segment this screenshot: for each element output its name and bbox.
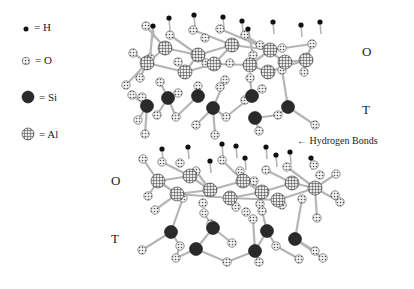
silicon-atom [246, 90, 259, 103]
aluminum-atom [207, 57, 221, 71]
oxygen-atom [151, 206, 159, 214]
oxygen-atom [222, 113, 230, 121]
hydrogen-atom [308, 155, 313, 160]
oxygen-atom [295, 255, 303, 263]
oxygen-atom [262, 166, 270, 174]
oxygen-atom [216, 25, 224, 33]
oxygen-atom [201, 34, 209, 42]
oxygen-atom [313, 214, 321, 222]
oxygen-atom [136, 74, 144, 82]
oxygen-atom [211, 131, 219, 139]
oxygen-atom [283, 163, 291, 171]
legend-aluminum-label: = Al [39, 129, 58, 140]
oxygen-atom [129, 49, 137, 57]
oxygen-atom [142, 22, 150, 30]
aluminum-atom [191, 48, 205, 62]
silicon-atom [190, 243, 203, 256]
silicon-atom [289, 233, 302, 246]
hydrogen-atom [207, 158, 212, 163]
aluminum-atom [178, 65, 192, 79]
upper-tetrahedral-label: T [362, 103, 370, 116]
hydrogen-bonds-label: ← Hydrogen Bonds [297, 135, 378, 146]
aluminum-atom [170, 187, 184, 201]
aluminum-atom [243, 58, 257, 72]
oxygen-atom [256, 41, 264, 49]
hydrogen-atom [298, 22, 303, 27]
silicon-atom [249, 245, 262, 258]
oxygen-atom [319, 254, 327, 262]
aluminum-atom [308, 181, 322, 195]
oxygen-atom [274, 111, 282, 119]
oxygen-atom [255, 258, 263, 266]
oxygen-atom [166, 31, 174, 39]
aluminum-atom [236, 174, 250, 188]
hydrogen-atom [150, 23, 155, 28]
oxygen-atom [246, 74, 254, 82]
legend-oxygen: = O [21, 55, 52, 66]
oxygen-atom [223, 258, 231, 266]
aluminum-atom [255, 185, 269, 199]
silicon-atom [165, 226, 178, 239]
oxygen-atom [122, 81, 130, 89]
lower-octahedral-label: O [111, 174, 120, 187]
oxygen-atom [311, 121, 319, 129]
legend-silicon: = Si [21, 90, 57, 104]
oxygen-atom [308, 40, 316, 48]
hydrogen-atom [245, 26, 250, 31]
oxygen-atom [331, 191, 339, 199]
silicon-atom [207, 222, 220, 235]
oxygen-atom [228, 239, 236, 247]
oxygen-atom [194, 82, 202, 90]
aluminum-atom [278, 55, 292, 69]
oxygen-atom [336, 198, 344, 206]
oxygen-atom [176, 159, 184, 167]
silicon-atom [207, 102, 220, 115]
aluminum-atom [140, 56, 154, 70]
aluminum-atom [183, 169, 197, 183]
aluminum-atom [261, 65, 275, 79]
oxygen-atom [300, 68, 308, 76]
oxygen-atom [199, 199, 207, 207]
hydrogen-atom [219, 141, 224, 146]
hydrogen-atom [317, 19, 322, 24]
silicon-atom [249, 112, 262, 125]
oxygen-atom [139, 155, 147, 163]
hydrogen-atom [233, 143, 238, 148]
oxygen-atom [128, 91, 136, 99]
aluminum-atom [223, 191, 237, 205]
hydrogen-atom [191, 12, 196, 17]
aluminum-atom [225, 38, 239, 52]
oxygen-atom [298, 195, 306, 203]
legend-silicon-label: = Si [39, 92, 57, 103]
hydrogen-atom [263, 144, 268, 149]
oxygen-atom [156, 78, 164, 86]
oxygen-atom [134, 116, 142, 124]
oxygen-atom [192, 121, 200, 129]
oxygen-atom [310, 161, 318, 169]
oxygen-atom [174, 89, 182, 97]
hydrogen-atom [220, 14, 225, 19]
oxygen-atom [221, 76, 229, 84]
silicon-atom [261, 225, 274, 238]
oxygen-atom [258, 85, 266, 93]
oxygen-atom [189, 26, 197, 34]
oxygen-atom [172, 113, 180, 121]
aluminum-atom [263, 43, 277, 57]
oxygen-atom [255, 127, 263, 135]
legend-hydrogen-label: = H [34, 22, 51, 33]
aluminum-atom [285, 176, 299, 190]
aluminum-atom [271, 193, 285, 207]
upper-octahedral-label: O [362, 45, 371, 58]
aluminum-atom [203, 183, 217, 197]
oxygen-atom [172, 254, 180, 262]
hydrogen-atom [239, 18, 244, 23]
oxygen-atom [218, 156, 226, 164]
lower-tetrahedral-label: T [111, 232, 119, 245]
legend-oxygen-label: = O [35, 55, 52, 66]
oxygen-atom [241, 31, 249, 39]
upper-layer [122, 12, 323, 139]
aluminum-atom [299, 53, 313, 67]
aluminum-atom [158, 41, 172, 55]
legend-aluminum: = Al [21, 127, 58, 141]
oxygen-atom [258, 207, 266, 215]
